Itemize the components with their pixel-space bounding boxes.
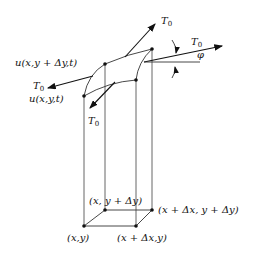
label-corner-x-y-dy: (x, y + Δy) (89, 196, 142, 206)
label-u-bottom: u(x,y,t) (29, 94, 64, 104)
membrane-surface (84, 49, 152, 96)
base-parallelogram (84, 210, 152, 226)
label-corner-x-y: (x,y) (67, 233, 89, 243)
label-angle-phi: φ (197, 50, 204, 60)
label-tension-left: T0 (33, 81, 44, 93)
label-corner-x-dx-y-dy: (x + Δx, y + Δy) (158, 205, 239, 215)
label-tension-up: T0 (161, 16, 172, 28)
membrane-diagram (0, 0, 260, 254)
label-corner-x-dx-y: (x + Δx,y) (117, 233, 167, 243)
label-tension-right: T0 (191, 37, 202, 49)
label-u-top: u(x,y + Δy,t) (15, 58, 77, 68)
label-tension-down: T0 (88, 116, 99, 128)
